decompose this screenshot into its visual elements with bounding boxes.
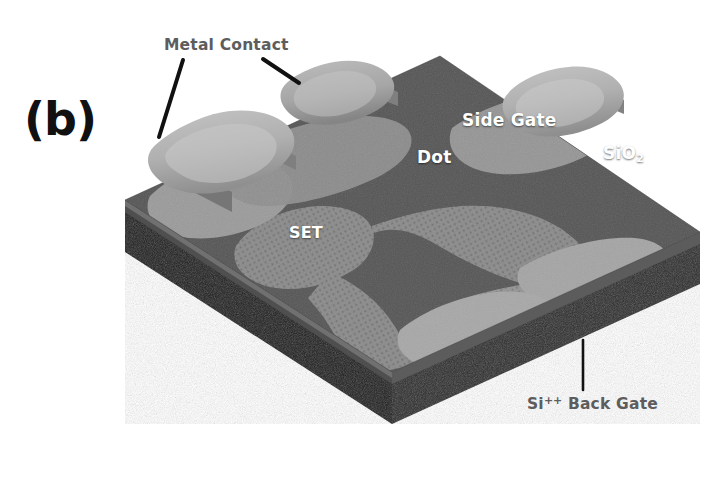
device-svg bbox=[0, 0, 726, 494]
device-schematic bbox=[0, 0, 726, 494]
label-sio2-subscript: 2 bbox=[636, 152, 644, 165]
label-back-gate-text: Back Gate bbox=[568, 395, 658, 413]
label-back-gate-superscript: ++ bbox=[544, 394, 562, 407]
label-back-gate: Si++ Back Gate bbox=[527, 394, 658, 413]
label-metal-contact: Metal Contact bbox=[164, 36, 289, 54]
label-side-gate: Side Gate bbox=[462, 110, 557, 130]
label-sio2-text: SiO bbox=[603, 143, 636, 163]
label-back-gate-prefix: Si bbox=[527, 395, 544, 413]
label-set: SET bbox=[289, 223, 323, 242]
label-sio2: SiO2 bbox=[603, 143, 644, 165]
figure-panel-b: (b) bbox=[0, 0, 726, 494]
label-dot: Dot bbox=[417, 147, 452, 167]
